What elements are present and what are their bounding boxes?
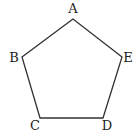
vertex-label-c: C xyxy=(30,118,40,131)
vertex-label-b: B xyxy=(9,50,19,65)
pentagon-diagram: A B C D E xyxy=(0,0,138,131)
vertex-label-d: D xyxy=(102,118,112,131)
vertex-label-e: E xyxy=(123,50,133,65)
pentagon-shape xyxy=(22,19,122,118)
vertex-label-a: A xyxy=(67,1,78,16)
